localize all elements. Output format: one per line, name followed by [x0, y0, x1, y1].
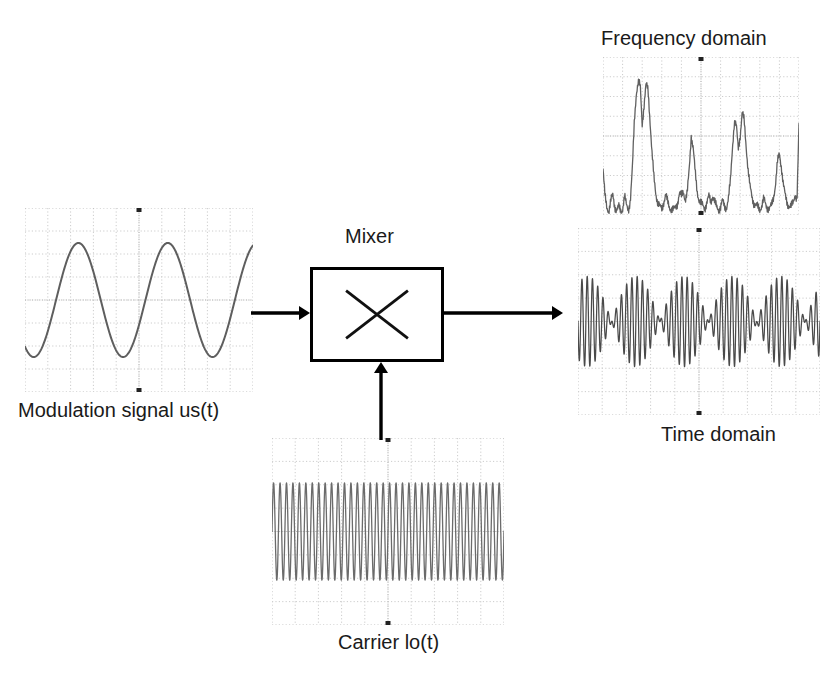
caption-frequency-domain: Frequency domain — [601, 27, 767, 49]
caption-modulation-signal: Modulation signal us(t) — [18, 399, 219, 421]
modulation-to-mixer — [251, 306, 310, 320]
diagram-canvas: Modulation signal us(t) Carrier lo(t) Fr… — [0, 0, 838, 677]
caption-time-domain: Time domain — [661, 423, 776, 445]
scope-carrier-signal — [272, 438, 504, 625]
mixer-block[interactable] — [310, 267, 444, 362]
multiplier-x-icon — [313, 270, 441, 359]
scope-time-domain — [578, 228, 820, 415]
carrier-to-mixer — [374, 362, 388, 440]
mixer-label: Mixer — [345, 225, 394, 247]
caption-carrier-signal: Carrier lo(t) — [338, 631, 439, 653]
scope-frequency-domain — [603, 57, 799, 215]
scope-modulation-signal — [25, 208, 253, 392]
mixer-to-output — [444, 306, 563, 320]
